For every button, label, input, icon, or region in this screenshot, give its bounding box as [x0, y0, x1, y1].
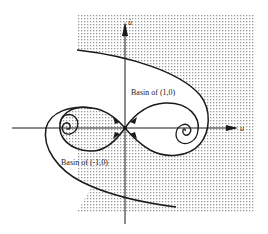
saddle-point	[123, 126, 127, 130]
basin-right-label: Basin of (1,0)	[131, 88, 176, 97]
vertical-axis-label: u̇	[128, 18, 132, 27]
horizontal-axis-label: u	[240, 124, 244, 133]
phase-portrait: u u̇ Basin of (1,0) Basin of (-1,0)	[0, 0, 268, 234]
basin-left-label: Basin of (-1,0)	[61, 158, 108, 167]
